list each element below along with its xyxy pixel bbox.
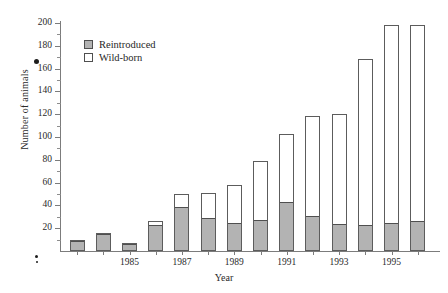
- y-tick-label: 200: [8, 18, 52, 28]
- y-tick: [55, 69, 61, 70]
- bar-1987: [174, 194, 189, 251]
- bar-chart: Number of animals Year 20406080100120140…: [0, 0, 448, 293]
- y-tick-minor: [57, 34, 61, 35]
- y-tick-label: 80: [8, 155, 52, 165]
- y-tick-label: 20: [8, 223, 52, 233]
- bar-segment-reintroduced: [97, 234, 110, 250]
- x-tick: [77, 251, 78, 255]
- y-tick-minor: [57, 80, 61, 81]
- legend-label-reintroduced: Reintroduced: [99, 38, 156, 51]
- legend-swatch-reintroduced-icon: [84, 40, 93, 49]
- bar-segment-reintroduced: [280, 202, 293, 250]
- y-tick-minor: [57, 103, 61, 104]
- y-tick-label: 140: [8, 86, 52, 96]
- x-tick: [339, 251, 340, 255]
- bar-1989: [227, 185, 242, 251]
- y-tick: [55, 114, 61, 115]
- bar-segment-reintroduced: [306, 216, 319, 250]
- bar-1992: [305, 116, 320, 251]
- y-tick-label: 160: [8, 64, 52, 74]
- bar-segment-reintroduced: [149, 225, 162, 250]
- bar-segment-reintroduced: [175, 207, 188, 250]
- x-tick: [130, 251, 131, 255]
- bar-1984: [96, 233, 111, 251]
- y-tick: [55, 23, 61, 24]
- bar-segment-reintroduced: [385, 223, 398, 250]
- x-tick-label: 1995: [382, 257, 401, 267]
- x-tick: [392, 251, 393, 255]
- bar-segment-reintroduced: [202, 218, 215, 250]
- bar-1983: [70, 240, 85, 251]
- x-tick: [365, 251, 366, 255]
- bar-segment-reintroduced: [254, 220, 267, 250]
- x-axis-line: [60, 251, 440, 252]
- y-tick: [55, 228, 61, 229]
- x-tick: [313, 251, 314, 255]
- bar-segment-reintroduced: [228, 223, 241, 250]
- y-tick-label: 60: [8, 178, 52, 188]
- x-tick: [208, 251, 209, 255]
- y-tick: [55, 46, 61, 47]
- bar-segment-reintroduced: [123, 244, 136, 250]
- y-tick-label: 100: [8, 132, 52, 142]
- legend: Reintroduced Wild-born: [84, 38, 156, 64]
- legend-label-wild-born: Wild-born: [99, 51, 142, 64]
- scan-speck: [36, 261, 38, 263]
- y-tick-minor: [57, 57, 61, 58]
- y-tick-minor: [57, 240, 61, 241]
- legend-item-reintroduced: Reintroduced: [84, 38, 156, 51]
- x-tick-label: 1991: [277, 257, 296, 267]
- x-tick: [182, 251, 183, 255]
- bar-1993: [332, 114, 347, 251]
- bar-1996: [410, 25, 425, 251]
- bar-1990: [253, 161, 268, 251]
- x-tick-label: 1989: [225, 257, 244, 267]
- bar-segment-reintroduced: [71, 241, 84, 250]
- y-tick-label: 40: [8, 200, 52, 210]
- x-tick: [418, 251, 419, 255]
- y-tick: [55, 91, 61, 92]
- y-tick: [55, 137, 61, 138]
- y-tick: [55, 205, 61, 206]
- bar-1988: [201, 193, 216, 251]
- x-tick: [234, 251, 235, 255]
- y-tick-minor: [57, 194, 61, 195]
- x-tick-label: 1985: [120, 257, 139, 267]
- legend-swatch-wild-born-icon: [84, 53, 93, 62]
- scan-speck: [34, 59, 39, 64]
- x-tick-label: 1987: [172, 257, 191, 267]
- y-tick-minor: [57, 126, 61, 127]
- y-tick: [55, 160, 61, 161]
- bar-1994: [358, 59, 373, 251]
- y-tick-minor: [57, 171, 61, 172]
- y-tick-minor: [57, 148, 61, 149]
- x-axis-title: Year: [0, 272, 448, 283]
- y-tick-label: 120: [8, 109, 52, 119]
- y-tick-label: 180: [8, 41, 52, 51]
- bar-1991: [279, 134, 294, 251]
- scan-speck: [35, 255, 38, 258]
- x-tick: [287, 251, 288, 255]
- x-tick: [261, 251, 262, 255]
- x-tick: [156, 251, 157, 255]
- bar-segment-reintroduced: [411, 221, 424, 250]
- bar-1986: [148, 221, 163, 251]
- x-tick-label: 1993: [330, 257, 349, 267]
- x-tick: [103, 251, 104, 255]
- y-tick-minor: [57, 217, 61, 218]
- bar-segment-reintroduced: [333, 224, 346, 250]
- y-tick: [55, 183, 61, 184]
- bar-segment-reintroduced: [359, 225, 372, 250]
- bar-1985: [122, 243, 137, 251]
- legend-item-wild-born: Wild-born: [84, 51, 156, 64]
- bar-1995: [384, 25, 399, 251]
